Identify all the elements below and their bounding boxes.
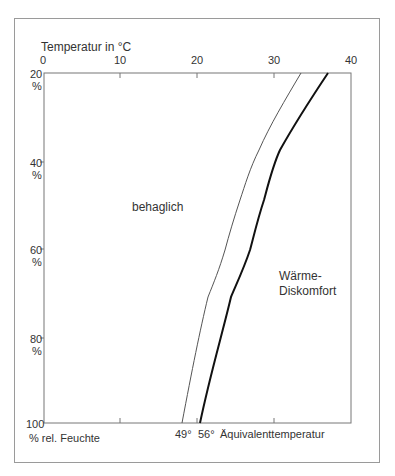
discomfort-label-1: Wärme- bbox=[279, 269, 322, 283]
plot-area bbox=[0, 0, 395, 476]
x-tick-40: 40 bbox=[345, 54, 357, 66]
x-tick-0: 0 bbox=[40, 54, 46, 66]
x-tick-20: 20 bbox=[191, 54, 203, 66]
discomfort-label-2: Diskomfort bbox=[279, 284, 336, 298]
y-tick-20-pct: % bbox=[32, 80, 42, 92]
y-tick-80-pct: % bbox=[32, 345, 42, 357]
x-tick-10: 10 bbox=[114, 54, 126, 66]
comfort-label: behaglich bbox=[132, 200, 183, 214]
curve-49 bbox=[182, 73, 301, 423]
x-axis-title: Temperatur in °C bbox=[41, 40, 131, 54]
y-tick-20: 20 bbox=[30, 68, 42, 80]
y-tick-80: 80 bbox=[30, 333, 42, 345]
x-tick-30: 30 bbox=[268, 54, 280, 66]
curve-56-label: 56° bbox=[198, 428, 215, 440]
y-tick-60: 60 bbox=[30, 244, 42, 256]
plot-border bbox=[44, 73, 351, 423]
y-tick-100: 100 bbox=[26, 418, 44, 430]
y-tick-40: 40 bbox=[30, 157, 42, 169]
curve-title: Äquivalenttemperatur bbox=[220, 428, 325, 440]
y-tick-40-pct: % bbox=[32, 169, 42, 181]
y-tick-60-pct: % bbox=[32, 256, 42, 268]
curve-56 bbox=[200, 73, 328, 423]
curve-49-label: 49° bbox=[175, 428, 192, 440]
y-axis-title: % rel. Feuchte bbox=[29, 432, 100, 444]
